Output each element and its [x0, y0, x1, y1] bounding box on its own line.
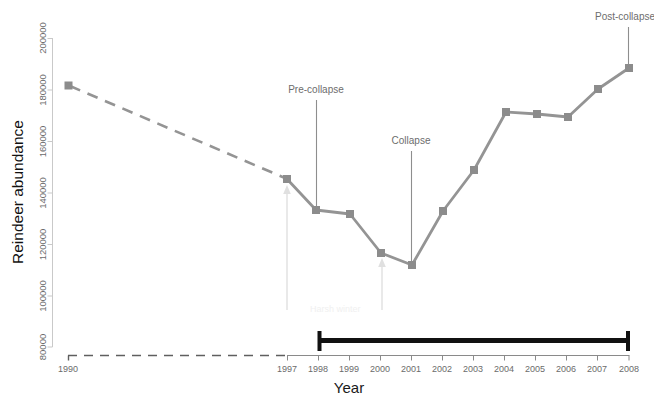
x-axis-title: Year [334, 379, 364, 396]
data-point-marker [283, 175, 291, 183]
data-point-marker [594, 85, 602, 93]
x-tick-label: 2002 [432, 364, 452, 374]
y-tick-label: 140000 [37, 177, 48, 209]
x-tick-label: 2001 [401, 364, 421, 374]
data-point-marker [346, 210, 354, 218]
data-point-marker [533, 110, 541, 118]
y-tick-label: 160000 [37, 126, 48, 158]
data-point-marker [312, 206, 320, 214]
data-point-marker [408, 261, 416, 269]
y-tick-label: 200000 [37, 22, 48, 54]
data-point-marker [470, 166, 478, 174]
pre-collapse-label: Pre-collapse [288, 84, 344, 95]
x-tick-label: 2008 [619, 364, 639, 374]
y-tick-label: 100000 [37, 280, 48, 312]
x-tick-label: 2004 [494, 364, 514, 374]
x-tick-label: 2000 [370, 364, 390, 374]
post-collapse-label: Post-collapse [595, 11, 654, 22]
x-tick-label: 1990 [58, 364, 78, 374]
x-tick-label: 2003 [463, 364, 483, 374]
x-tick-label: 1998 [308, 364, 328, 374]
harsh-winter-label: Harsh winter [310, 304, 361, 314]
data-point-marker [564, 113, 572, 121]
y-tick-label: 180000 [37, 74, 48, 106]
y-tick-label: 80000 [37, 334, 48, 360]
x-tick-label: 2007 [587, 364, 607, 374]
collapse-label: Collapse [392, 135, 431, 146]
data-point-marker [377, 249, 385, 257]
chart-svg: 200000 180000 160000 140000 120000 10000… [0, 0, 654, 408]
y-tick-label: 120000 [37, 229, 48, 261]
data-point-marker [502, 108, 510, 116]
x-tick-label: 2005 [525, 364, 545, 374]
x-tick-label: 1997 [277, 364, 297, 374]
chart-background [0, 0, 654, 408]
y-axis-title: Reindeer abundance [9, 120, 26, 264]
data-point-marker [625, 64, 633, 72]
data-point-marker [65, 82, 73, 90]
reindeer-abundance-chart: 200000 180000 160000 140000 120000 10000… [0, 0, 654, 408]
data-point-marker [439, 207, 447, 215]
x-tick-label: 2006 [556, 364, 576, 374]
x-tick-label: 1999 [339, 364, 359, 374]
